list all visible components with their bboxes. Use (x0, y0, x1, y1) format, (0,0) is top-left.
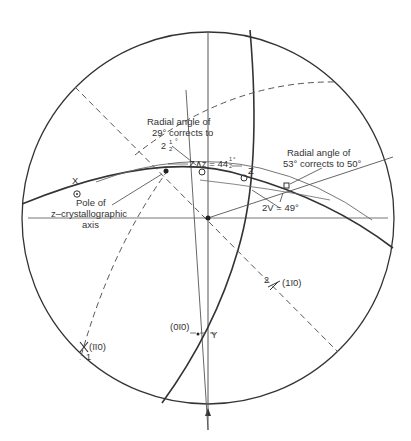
label-radial-29-line2: 29° corrects to (152, 127, 213, 138)
label-plane-bar1bar10: (īī0) (89, 341, 106, 352)
label-radial-29-num: 1 (169, 139, 173, 145)
label-z-angle: Z∧z = 44 (189, 158, 228, 169)
label-z-angle-num: 1 (229, 156, 232, 162)
label-Z: Z (248, 165, 254, 176)
label-pole-line1: Pole of (76, 197, 106, 208)
label-z-angle-den: 2 (229, 163, 232, 169)
label-Y: Y (211, 329, 218, 340)
point-z-lower (199, 169, 205, 175)
label-radial-29-deg: ° (175, 138, 178, 145)
label-pole-line3: axis (82, 219, 99, 230)
stereonet-diagram: X Radial angle of 29° corrects to 2 1 2 … (0, 0, 411, 441)
thin-great-circle (186, 90, 208, 430)
label-radial-29-val: 2 (161, 141, 166, 151)
label-x: X (72, 175, 79, 186)
label-plane-1bar10: (1ī0) (282, 277, 302, 288)
center-point (206, 216, 211, 221)
label-pole-line2: z–crystallographic (51, 208, 127, 219)
label-plane-0bar10: (0ī0) (170, 321, 190, 332)
pole-x-dot (76, 193, 78, 195)
point-0bar10 (197, 333, 200, 336)
pole-z-marker (164, 169, 169, 174)
label-radial-53-line1: Radial angle of (287, 147, 351, 158)
label-num-1: 1 (86, 352, 91, 362)
label-radial-29-den: 2 (169, 146, 173, 152)
label-z-angle-deg: ° (233, 156, 236, 162)
label-2v: 2V = 49° (262, 202, 299, 213)
star-marker-2b (270, 282, 278, 290)
great-circle-inner (200, 180, 330, 200)
label-num-2: 2 (264, 275, 269, 285)
label-radial-29-line1: Radial angle of (147, 116, 211, 127)
arrow-bottom-icon (205, 408, 211, 416)
point-53 (284, 183, 289, 188)
label-radial-53-line2: 53° corrects to 50° (283, 158, 362, 169)
